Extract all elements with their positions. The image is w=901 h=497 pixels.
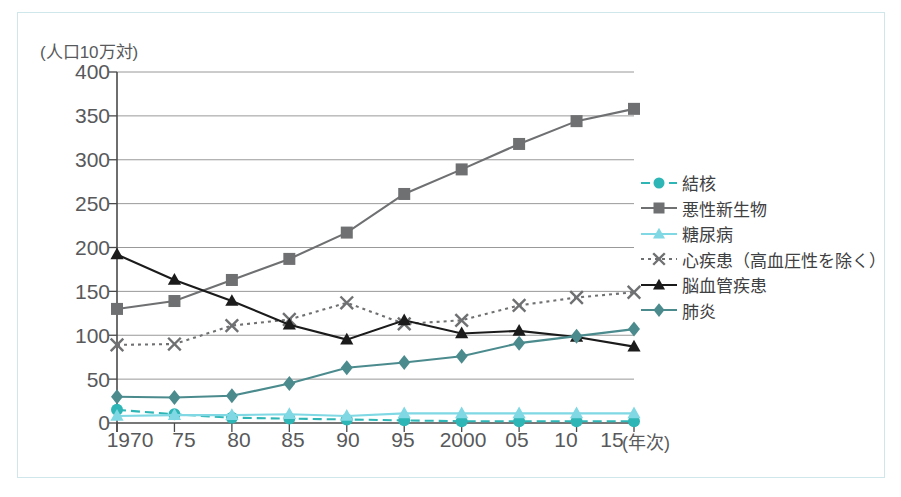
legend-label-diabetes: 糖尿病: [678, 221, 733, 246]
series-2: [110, 406, 640, 420]
legend-item-pneumonia[interactable]: 肺炎: [640, 298, 895, 324]
legend-marker-square-icon: [640, 198, 678, 218]
gridlines: [117, 72, 634, 423]
legend-label-heart-disease: 心疾患（高血圧性を除く）: [678, 247, 886, 272]
chart-legend: 結核 悪性新生物 糖尿病 心疾患（高血圧性を除く） 脳血管疾患 肺炎: [640, 170, 895, 323]
chart-page: (人口10万対) 400 350 300 250 200 150 100 50 …: [0, 0, 901, 497]
legend-marker-diamond-icon: [640, 300, 678, 320]
legend-marker-triangle-dark-icon: [640, 275, 678, 295]
legend-label-pneumonia: 肺炎: [678, 298, 716, 323]
legend-marker-triangle-light-icon: [640, 224, 678, 244]
legend-label-malignant-neoplasm: 悪性新生物: [678, 196, 767, 221]
legend-item-heart-disease[interactable]: 心疾患（高血圧性を除く）: [640, 247, 895, 273]
series-layer: [110, 103, 640, 427]
legend-label-tuberculosis: 結核: [678, 170, 716, 195]
legend-marker-cross-icon: [640, 249, 678, 269]
legend-item-tuberculosis[interactable]: 結核: [640, 170, 895, 196]
legend-item-cerebrovascular[interactable]: 脳血管疾患: [640, 272, 895, 298]
legend-marker-circle-icon: [640, 173, 678, 193]
legend-item-diabetes[interactable]: 糖尿病: [640, 221, 895, 247]
legend-item-malignant-neoplasm[interactable]: 悪性新生物: [640, 196, 895, 222]
axes: [109, 72, 634, 432]
legend-label-cerebrovascular: 脳血管疾患: [678, 272, 767, 297]
series-5: [111, 322, 640, 405]
series-1: [111, 103, 640, 315]
